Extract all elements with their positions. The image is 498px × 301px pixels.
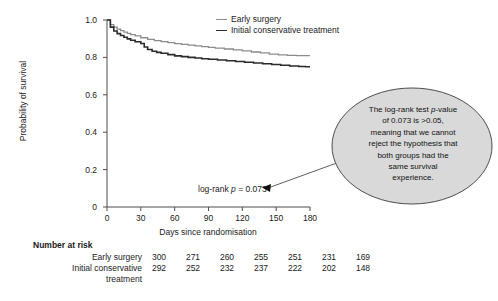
legend-swatch-early-surgery (216, 19, 227, 20)
chart-legend: Early surgery Initial conservative treat… (216, 14, 339, 36)
risk-row-label-initial-conservative: Initial conservative (0, 263, 142, 273)
callout-line-1a: The log-rank test (369, 105, 431, 114)
callout-text: The log-rank test p-value of 0.073 is >0… (344, 104, 482, 184)
risk-table-title: Number at risk (33, 240, 93, 250)
y-tick-label-0.6: 0.6 (71, 90, 97, 100)
risk-value: 222 (282, 263, 308, 273)
legend-item-early-surgery: Early surgery (216, 14, 339, 24)
legend-item-initial-conservative: Initial conservative treatment (216, 25, 339, 35)
risk-value: 300 (146, 252, 172, 262)
risk-value: 271 (180, 252, 206, 262)
callout-line-6: same survival (389, 162, 438, 171)
x-tick-label-60: 60 (162, 213, 188, 223)
callout-line-1b: -value (435, 105, 457, 114)
callout-line-2: of 0.073 is >0.05, (382, 116, 444, 125)
callout-line-4: reject the hypothesis that (369, 139, 458, 148)
y-tick-label-0.4: 0.4 (71, 127, 97, 137)
y-tick-label-0: 0 (71, 202, 97, 212)
table-row: Early surgery 300 271 260 255 251 231 16… (0, 252, 360, 263)
x-tick-label-0: 0 (94, 213, 120, 223)
legend-label-initial-conservative: Initial conservative treatment (231, 25, 339, 35)
callout-line-7: experience. (392, 173, 433, 182)
legend-label-early-surgery: Early surgery (231, 14, 281, 24)
legend-swatch-initial-conservative (216, 30, 227, 31)
risk-value: 292 (146, 263, 172, 273)
logrank-annotation: log-rank p = 0.073 (198, 184, 267, 194)
kaplan-meier-figure: Probability of survival Days since rando… (0, 0, 498, 301)
risk-value: 202 (316, 263, 342, 273)
table-row-continuation: treatment (0, 274, 360, 285)
x-tick-label-90: 90 (196, 213, 222, 223)
y-axis-label: Probability of survival (18, 41, 28, 161)
risk-value: 252 (180, 263, 206, 273)
x-axis-label: Days since randomisation (148, 227, 268, 237)
risk-value: 169 (350, 252, 376, 262)
y-tick-label-0.8: 0.8 (71, 52, 97, 62)
callout-line-5: both groups had the (377, 151, 448, 160)
risk-value: 237 (248, 263, 274, 273)
logrank-suffix: = 0.073 (236, 184, 267, 194)
x-tick-label-150: 150 (263, 213, 289, 223)
callout-line-3: meaning that we cannot (371, 128, 456, 137)
x-tick-label-120: 120 (229, 213, 255, 223)
risk-row-label-initial-conservative-line2: treatment (0, 274, 142, 284)
table-row: Initial conservative 292 252 232 237 222… (0, 263, 360, 274)
x-tick-label-30: 30 (128, 213, 154, 223)
x-axis-ticks (107, 207, 310, 211)
logrank-prefix: log-rank (198, 184, 231, 194)
risk-value: 148 (350, 263, 376, 273)
risk-row-label-early-surgery: Early surgery (0, 252, 142, 262)
risk-value: 260 (214, 252, 240, 262)
risk-value: 251 (282, 252, 308, 262)
x-tick-label-180: 180 (297, 213, 323, 223)
risk-value: 255 (248, 252, 274, 262)
y-tick-label-1.0: 1.0 (71, 15, 97, 25)
callout-leader-line (268, 160, 345, 188)
risk-value: 231 (316, 252, 342, 262)
risk-value: 232 (214, 263, 240, 273)
y-axis-ticks (103, 20, 107, 207)
y-tick-label-0.2: 0.2 (71, 165, 97, 175)
